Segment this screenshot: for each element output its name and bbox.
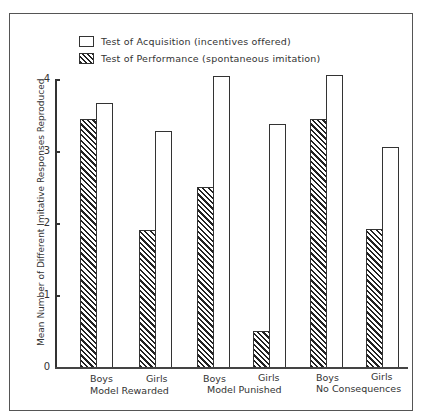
y-tick xyxy=(55,295,60,297)
open-swatch-icon xyxy=(79,36,94,47)
y-tick-label: 1 xyxy=(40,289,50,300)
acquisition-bar xyxy=(382,147,399,367)
x-category-label: Girls xyxy=(146,373,168,384)
x-group-label: Model Rewarded xyxy=(90,385,169,396)
y-tick xyxy=(55,79,60,81)
x-category-label: Boys xyxy=(316,372,339,383)
x-group-label: No Consequences xyxy=(316,383,401,394)
y-tick-label: 2 xyxy=(40,217,50,228)
legend-label-performance: Test of Performance (spontaneous imitati… xyxy=(101,53,320,64)
acquisition-bar xyxy=(96,103,113,367)
y-tick-label: 3 xyxy=(40,145,50,156)
y-tick-label: 0 xyxy=(40,361,50,372)
legend-item-performance: Test of Performance (spontaneous imitati… xyxy=(79,51,320,65)
x-category-label: Boys xyxy=(90,373,113,384)
acquisition-bar xyxy=(269,124,286,367)
acquisition-bar xyxy=(326,75,343,367)
performance-bar xyxy=(310,119,327,367)
hatched-swatch-icon xyxy=(79,53,94,64)
x-category-label: Girls xyxy=(371,371,393,382)
x-axis xyxy=(55,367,408,369)
x-group-label: Model Punished xyxy=(207,384,282,395)
legend-label-acquisition: Test of Acquisition (incentives offered) xyxy=(101,36,291,47)
y-tick-label: 4 xyxy=(40,73,50,84)
performance-bar xyxy=(80,119,97,367)
x-category-label: Boys xyxy=(203,373,226,384)
y-tick xyxy=(55,151,60,153)
legend-item-acquisition: Test of Acquisition (incentives offered) xyxy=(79,34,291,48)
y-tick xyxy=(55,223,60,225)
performance-bar xyxy=(366,229,383,367)
performance-bar xyxy=(253,331,270,367)
x-category-label: Girls xyxy=(258,372,280,383)
performance-bar xyxy=(197,187,214,367)
acquisition-bar xyxy=(213,76,230,367)
performance-bar xyxy=(139,230,156,367)
acquisition-bar xyxy=(155,131,172,367)
